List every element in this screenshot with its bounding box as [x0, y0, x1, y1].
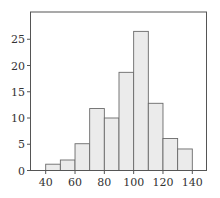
- y-tick-label: 20: [11, 60, 25, 73]
- histogram-bar-70-80: [90, 109, 105, 171]
- x-tick-label: 100: [123, 176, 144, 189]
- x-tick-label: 140: [182, 176, 203, 189]
- histogram-bar-100-110: [134, 31, 149, 170]
- x-tick-label: 80: [97, 176, 111, 189]
- y-tick-label: 15: [11, 86, 25, 99]
- histogram-bar-80-90: [104, 118, 119, 171]
- y-tick-label: 0: [18, 165, 25, 178]
- y-tick-label: 10: [11, 112, 25, 125]
- histogram-bar-90-100: [119, 72, 134, 170]
- histogram-bars: [46, 31, 193, 170]
- histogram-bar-60-70: [75, 144, 90, 171]
- histogram-bar-110-120: [148, 103, 163, 170]
- x-axis: 406080100120140: [39, 171, 203, 190]
- y-axis: 0510152025: [11, 33, 31, 177]
- y-tick-label: 25: [11, 33, 25, 46]
- histogram-bar-120-130: [163, 138, 178, 170]
- y-tick-label: 5: [18, 138, 25, 151]
- histogram-bar-130-140: [178, 149, 193, 171]
- x-tick-label: 40: [39, 176, 53, 189]
- histogram-bar-50-60: [60, 160, 75, 171]
- x-tick-label: 120: [152, 176, 173, 189]
- histogram-chart: 0510152025 406080100120140: [0, 0, 220, 198]
- x-tick-label: 60: [68, 176, 82, 189]
- histogram-bar-40-50: [46, 164, 61, 170]
